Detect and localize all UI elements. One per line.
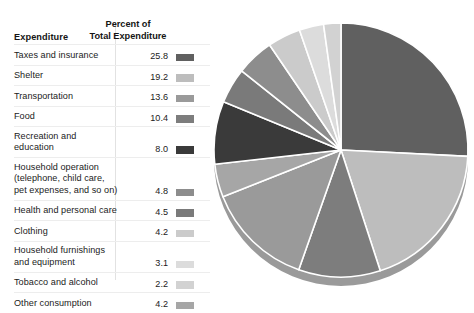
row-label: Shelter <box>14 67 118 85</box>
row-label-line: Other consumption <box>14 298 118 310</box>
color-swatch <box>176 209 194 217</box>
row-swatch-cell <box>168 302 210 313</box>
column-header-percent-line2: Total Expenditure <box>68 31 188 43</box>
row-percent-value: 2.2 <box>118 279 168 292</box>
row-percent-value: 10.4 <box>118 113 168 126</box>
row-label-line: Clothing <box>14 226 118 238</box>
row-label: Other consumption <box>14 294 118 312</box>
table-row: Clothing4.2 <box>14 220 210 241</box>
table-row: Shelter19.2 <box>14 65 210 86</box>
row-percent-value: 4.2 <box>118 227 168 240</box>
row-percent-value: 25.8 <box>118 51 168 64</box>
row-label-line: Tobacco and alcohol <box>14 277 118 289</box>
row-swatch-cell <box>168 230 210 241</box>
row-label: Recreation and education <box>14 127 118 157</box>
row-label-line: Shelter <box>14 70 118 82</box>
row-label-line: Food <box>14 111 118 123</box>
column-header-percent-line1: Percent of <box>68 19 188 31</box>
table-header: Expenditure Percent of Total Expenditure <box>14 16 210 44</box>
row-swatch-cell <box>168 54 210 65</box>
row-label-line: Transportation <box>14 91 118 103</box>
column-header-percent: Percent of Total Expenditure <box>68 19 188 42</box>
row-percent-value: 4.8 <box>118 186 168 199</box>
column-header-expenditure: Expenditure <box>14 32 68 42</box>
pie-slice <box>341 23 468 156</box>
row-swatch-cell <box>168 189 210 200</box>
row-swatch-cell <box>168 281 210 292</box>
color-swatch <box>176 302 194 310</box>
row-swatch-cell <box>168 261 210 272</box>
row-swatch-cell <box>168 209 210 220</box>
table-row: Household furnishingsand equipment3.1 <box>14 241 210 272</box>
row-percent-value: 13.6 <box>118 92 168 105</box>
color-swatch <box>176 95 194 103</box>
color-swatch <box>176 146 194 154</box>
table-body: Taxes and insurance25.8Shelter19.2Transp… <box>14 44 210 313</box>
row-label-line: Household operation <box>14 162 118 174</box>
table-row: Recreation and education8.0 <box>14 126 210 157</box>
row-percent-value: 8.0 <box>118 144 168 157</box>
row-label-line: Taxes and insurance <box>14 50 118 62</box>
row-label: Household furnishingsand equipment <box>14 242 118 272</box>
table-row: Other consumption4.2 <box>14 292 210 313</box>
table-row: Taxes and insurance25.8 <box>14 44 210 65</box>
color-swatch <box>176 261 194 269</box>
table-row: Tobacco and alcohol2.2 <box>14 272 210 293</box>
row-swatch-cell <box>168 146 210 157</box>
row-label: Food <box>14 108 118 126</box>
row-percent-value: 19.2 <box>118 72 168 85</box>
pie-chart <box>212 18 470 290</box>
row-swatch-cell <box>168 74 210 85</box>
row-label-line: and equipment <box>14 257 118 269</box>
row-label: Health and personal care <box>14 202 118 220</box>
row-percent-value: 3.1 <box>118 258 168 271</box>
color-swatch <box>176 189 194 197</box>
row-label-line: Health and personal care <box>14 205 118 217</box>
expenditure-legend-table: Expenditure Percent of Total Expenditure… <box>14 16 210 313</box>
color-swatch <box>176 115 194 123</box>
color-swatch <box>176 281 194 289</box>
row-label-line: (telephone, child care, <box>14 173 118 185</box>
table-row: Transportation13.6 <box>14 85 210 106</box>
row-label: Transportation <box>14 87 118 105</box>
row-label-line: Household furnishings <box>14 245 118 257</box>
pie-chart-svg <box>212 18 470 290</box>
pie-slices <box>214 23 468 277</box>
row-label: Clothing <box>14 222 118 240</box>
row-label: Taxes and insurance <box>14 46 118 64</box>
row-label: Household operation(telephone, child car… <box>14 158 118 200</box>
row-swatch-cell <box>168 115 210 126</box>
color-swatch <box>176 230 194 238</box>
color-swatch <box>176 74 194 82</box>
color-swatch <box>176 54 194 62</box>
row-percent-value: 4.5 <box>118 207 168 220</box>
row-label: Tobacco and alcohol <box>14 274 118 292</box>
row-label-line: Recreation and education <box>14 131 118 154</box>
row-swatch-cell <box>168 95 210 106</box>
row-label-line: pet expenses, and so on) <box>14 185 118 197</box>
row-percent-value: 4.2 <box>118 299 168 312</box>
table-row: Health and personal care4.5 <box>14 200 210 221</box>
table-row: Food10.4 <box>14 106 210 127</box>
table-row: Household operation(telephone, child car… <box>14 157 210 200</box>
